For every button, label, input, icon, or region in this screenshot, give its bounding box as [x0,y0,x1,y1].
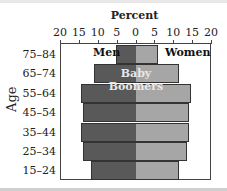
x-tick-label: 20 [204,26,218,39]
x-tick-label: 5 [113,26,120,39]
bar-women [136,161,179,180]
age-group-label: 35–44 [16,126,56,139]
bar-men [83,142,136,161]
x-tick-mark [192,40,193,44]
x-axis-ticks: 201510505101520 [0,26,227,40]
x-tick-mark [117,40,118,44]
y-axis-title: Age [4,87,19,112]
x-tick-label: 20 [53,26,67,39]
age-group-label: 75–84 [16,48,56,61]
age-group-label: 65–74 [16,67,56,80]
bar-men [81,123,136,142]
annotation-boomers: Boomers [96,80,176,94]
bottom-border [0,188,227,191]
age-group-label: 45–54 [16,106,56,119]
age-group-label: 15–24 [16,164,56,177]
legend-women: Women [165,46,210,59]
age-group-label: 55–64 [16,87,56,100]
legend-men: Men [93,46,120,59]
x-tick-label: 10 [91,26,105,39]
x-tick-label: 15 [185,26,199,39]
x-axis-title: Percent [0,9,227,22]
bar-men [83,103,136,122]
x-tick-label: 0 [132,26,139,39]
x-tick-mark [211,40,212,44]
age-group-label: 25–34 [16,145,56,158]
plot-area: MenWomen [60,43,211,180]
x-tick-mark [98,40,99,44]
x-tick-label: 5 [151,26,158,39]
x-tick-mark [60,40,61,44]
bar-women [136,142,187,161]
x-tick-mark [79,40,80,44]
x-tick-mark [173,40,174,44]
x-tick-label: 10 [166,26,180,39]
x-tick-label: 15 [72,26,86,39]
top-border [0,0,227,3]
bar-men [91,161,136,180]
annotation-baby: Baby [96,67,176,81]
x-tick-mark [136,40,137,44]
bar-women [136,123,189,142]
bar-women [136,103,189,122]
bar-women [136,45,158,64]
x-tick-mark [154,40,155,44]
